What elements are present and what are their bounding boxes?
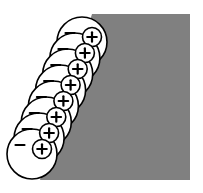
polarized-atom-chain-diagram [0, 0, 203, 193]
figure-root: Eight overlapping circles representing p… [0, 0, 203, 193]
